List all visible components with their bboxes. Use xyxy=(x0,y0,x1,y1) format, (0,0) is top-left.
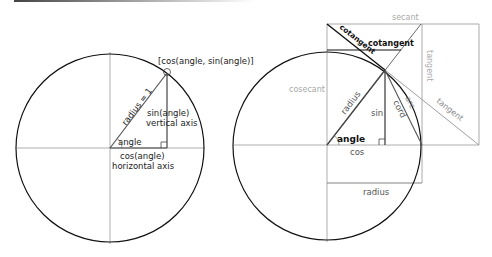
left-cos-label-1: cos(angle) xyxy=(120,151,165,161)
tangent-vertical-label: tangent xyxy=(425,50,434,81)
tangent-diagonal-label: tangent xyxy=(435,96,465,122)
top-rule xyxy=(14,0,254,2)
sin-label: sin xyxy=(371,108,383,118)
right-trig-functions-diagram: secant cotangent cotangent cosecant tang… xyxy=(233,13,479,242)
left-point-label: [cos(angle, sin(angle)] xyxy=(158,56,254,66)
left-sin-label-2: vertical axis xyxy=(146,118,198,128)
left-right-angle-marker xyxy=(161,142,167,148)
cosecant-label: cosecant xyxy=(289,85,325,94)
radius-box-label: radius xyxy=(363,187,390,197)
left-cos-label-2: horizontal axis xyxy=(112,161,175,171)
cos-label: cos xyxy=(350,147,365,157)
left-unit-circle-diagram: [cos(angle, sin(angle)] radius = 1 sin(a… xyxy=(16,52,254,244)
cotangent-horizontal-label: cotangent xyxy=(368,39,414,48)
left-sin-label-1: sin(angle) xyxy=(147,108,189,118)
trig-diagram-canvas: [cos(angle, sin(angle)] radius = 1 sin(a… xyxy=(0,0,492,257)
secant-label: secant xyxy=(392,13,419,22)
right-right-angle-marker xyxy=(379,139,385,145)
left-angle-label: angle xyxy=(118,137,142,147)
right-angle-label: angle xyxy=(337,134,365,144)
